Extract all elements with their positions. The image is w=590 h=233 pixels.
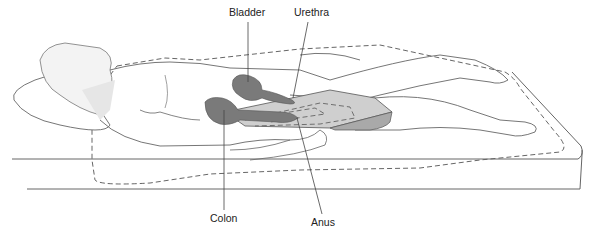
medical-diagram: Bladder Urethra Colon Anus	[0, 0, 590, 233]
label-urethra: Urethra	[294, 6, 329, 18]
diagram-illustration	[0, 0, 590, 233]
label-colon: Colon	[210, 212, 237, 224]
label-anus: Anus	[311, 216, 335, 228]
arm	[230, 130, 327, 160]
bladder-shape	[232, 75, 294, 104]
label-bladder: Bladder	[229, 6, 265, 18]
